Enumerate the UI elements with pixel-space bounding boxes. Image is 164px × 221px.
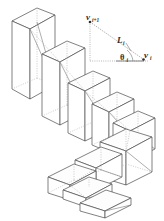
svg-text:v: v — [144, 50, 149, 60]
label-angle-base: θ — [120, 52, 125, 62]
label-length-sub: i — [123, 40, 125, 46]
staircase-diagram-svg: v i+1 L i θ i — [0, 0, 164, 221]
svg-text:L: L — [116, 35, 123, 45]
svg-text:i: i — [123, 40, 125, 46]
svg-text:θ: θ — [120, 52, 125, 62]
label-angle-sub: i — [127, 57, 129, 63]
label-v-next-sub: i+1 — [92, 17, 100, 23]
label-v-next-base: v — [86, 12, 91, 22]
label-v-current-sub: i — [150, 55, 152, 61]
svg-text:i: i — [127, 57, 129, 63]
figure-root: Isometric staircase of rectangular block… — [0, 0, 164, 221]
inset-hypotenuse-tick — [126, 43, 131, 51]
label-v-next: v i+1 — [86, 12, 100, 23]
label-v-current: v i — [144, 50, 152, 61]
label-length: L i — [116, 35, 125, 46]
svg-text:i: i — [150, 55, 152, 61]
vector-triangle-inset: v i+1 L i θ i — [86, 12, 152, 63]
label-length-base: L — [116, 35, 123, 45]
label-v-current-base: v — [144, 50, 149, 60]
svg-text:v: v — [86, 12, 91, 22]
lower-staircase-group — [48, 129, 152, 218]
label-angle: θ i — [120, 52, 129, 63]
svg-text:i+1: i+1 — [92, 17, 100, 23]
